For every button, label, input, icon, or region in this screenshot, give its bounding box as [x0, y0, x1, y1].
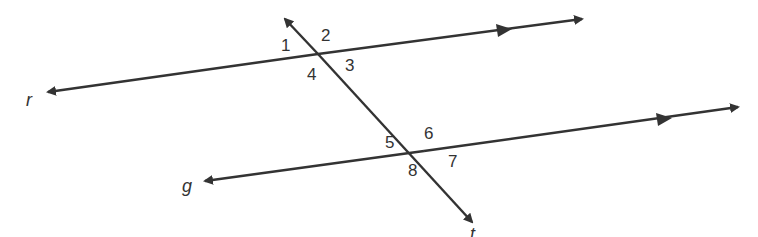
- angle-label-5: 5: [385, 133, 394, 152]
- angle-label-2: 2: [321, 26, 330, 45]
- angle-label-7: 7: [448, 152, 457, 171]
- line-label-r: r: [26, 90, 33, 110]
- parallel-marker-r: [496, 24, 512, 37]
- parallel-lines-transversal-diagram: r g t 1 2 3 4 5 6 7 8: [0, 0, 758, 237]
- angle-label-1: 1: [281, 36, 290, 55]
- line-t: [318, 54, 472, 222]
- line-label-t: t: [470, 224, 476, 237]
- diagram-canvas: r g t 1 2 3 4 5 6 7 8: [0, 0, 758, 237]
- line-g-right: [424, 107, 738, 151]
- parallel-marker-g: [656, 113, 672, 126]
- line-r-right: [318, 19, 582, 54]
- line-r: [48, 54, 318, 92]
- line-g: [205, 151, 424, 181]
- angle-label-3: 3: [345, 56, 354, 75]
- angle-label-8: 8: [408, 161, 417, 180]
- line-label-g: g: [182, 176, 192, 196]
- angle-label-6: 6: [424, 124, 433, 143]
- angle-label-4: 4: [307, 65, 316, 84]
